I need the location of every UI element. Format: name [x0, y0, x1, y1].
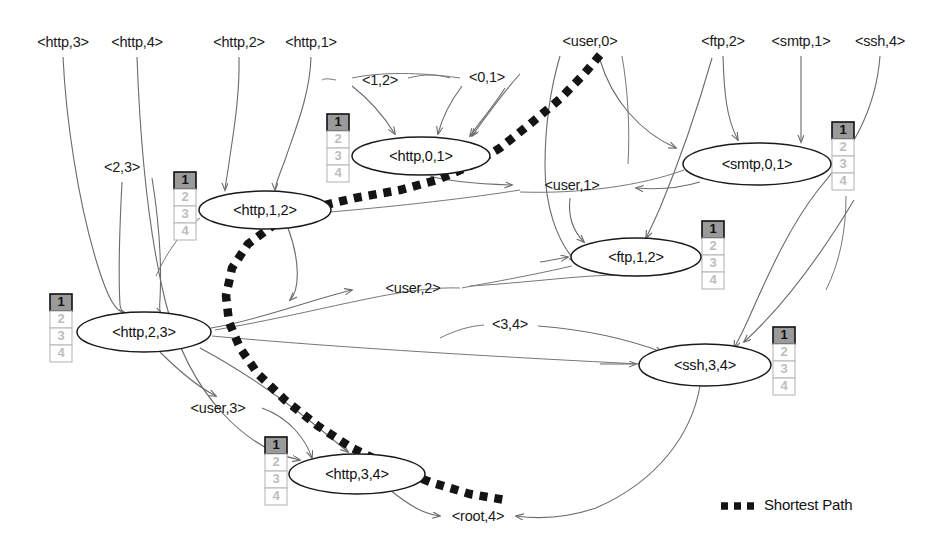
edge-http1-to-http12 — [275, 57, 311, 190]
shortest-path-legend-label: Shortest Path — [764, 496, 852, 513]
edge-http23-to-user3 — [160, 352, 216, 396]
edge-01-to-http01 — [438, 86, 462, 134]
badge-column-http12: 1234 — [174, 172, 196, 240]
badge-cell-label-ftp12-4: 4 — [709, 272, 717, 287]
node-http23[interactable]: 1234<http,2,3> — [50, 294, 211, 362]
edge-badge-to-ssh34 — [744, 200, 854, 342]
edge-user0-left — [545, 56, 576, 262]
graph-canvas: 1234<http,0,1>1234<smtp,0,1>1234<http,1,… — [0, 0, 942, 549]
badge-cell-label-smtp01-1: 1 — [839, 122, 846, 137]
edge-01-cross-to-http01 — [470, 88, 505, 136]
label-user2: <user,2> — [386, 280, 441, 296]
shortest-path-line — [226, 55, 600, 500]
badge-cell-label-http23-4: 4 — [57, 345, 65, 360]
badge-cell-label-ftp12-3: 3 — [709, 255, 716, 270]
edge-23-branch — [152, 178, 162, 314]
edge-smtp01-to-user1 — [636, 182, 700, 189]
edge-http23-to-ssh34 — [212, 336, 640, 364]
edge-user1-to-ftp12 — [570, 198, 584, 242]
label-e23: <2,3> — [104, 159, 140, 175]
badge-cell-label-http34-2: 2 — [272, 454, 279, 469]
node-layer: 1234<http,0,1>1234<smtp,0,1>1234<http,1,… — [50, 114, 854, 505]
badge-column-smtp01: 1234 — [832, 122, 854, 190]
edge-http34-to-root4 — [390, 490, 440, 516]
attack-graph-diagram: 1234<http,0,1>1234<smtp,0,1>1234<http,1,… — [0, 0, 942, 549]
badge-cell-label-http34-4: 4 — [272, 488, 280, 503]
label-e12: <1,2> — [362, 72, 398, 88]
node-ssh34[interactable]: 1234<ssh,3,4> — [639, 327, 795, 395]
label-root4: <root,4> — [452, 508, 504, 524]
edge-smtp-badge-down — [826, 196, 846, 290]
edge-ftp2-to-smtp01 — [723, 56, 738, 140]
label-user3: <user,3> — [191, 400, 246, 416]
node-label-ftp12: <ftp,1,2> — [608, 249, 663, 265]
badge-cell-label-ssh34-4: 4 — [780, 378, 788, 393]
badge-column-ssh34: 1234 — [773, 327, 795, 395]
label-user1: <user,1> — [545, 177, 600, 193]
node-ftp12[interactable]: 1234<ftp,1,2> — [571, 221, 724, 289]
label-ssh4: <ssh,4> — [855, 33, 905, 49]
node-smtp01[interactable]: 1234<smtp,0,1> — [683, 122, 854, 190]
edge-layer — [63, 56, 880, 518]
badge-cell-label-ftp12-2: 2 — [709, 238, 716, 253]
badge-cell-label-http34-1: 1 — [272, 437, 279, 452]
edge-ssh4-to-ssh34 — [734, 56, 880, 348]
badge-cell-label-ssh34-1: 1 — [780, 327, 787, 342]
label-http3: <http,3> — [37, 34, 89, 50]
badge-cell-label-http01-3: 3 — [334, 148, 341, 163]
legend: Shortest Path — [721, 496, 852, 513]
edge-12-to-http01 — [352, 86, 395, 134]
badge-cell-label-smtp01-4: 4 — [839, 173, 847, 188]
node-label-smtp01: <smtp,0,1> — [722, 156, 793, 172]
badge-cell-label-ssh34-2: 2 — [780, 344, 787, 359]
badge-column-ftp12: 1234 — [702, 221, 724, 289]
badge-cell-label-http12-3: 3 — [181, 206, 188, 221]
edge-ftp2-to-ftp12 — [646, 58, 712, 238]
badge-cell-label-http01-1: 1 — [334, 114, 341, 129]
node-http12[interactable]: 1234<http,1,2> — [174, 172, 331, 240]
label-http4: <http,4> — [111, 34, 163, 50]
label-ftp2: <ftp,2> — [701, 33, 745, 49]
edge-to-user2-right — [470, 275, 640, 286]
badge-column-http23: 1234 — [50, 294, 72, 362]
edge-ftp12-left — [462, 266, 572, 288]
edge-23-to-http23 — [119, 182, 128, 315]
edge-user0-right — [622, 56, 629, 164]
badge-cell-label-smtp01-3: 3 — [839, 156, 846, 171]
badge-cell-label-http12-4: 4 — [181, 223, 189, 238]
badge-cell-label-ftp12-1: 1 — [709, 221, 716, 236]
badge-cell-label-http01-4: 4 — [334, 165, 342, 180]
edge-http12-down — [288, 228, 297, 300]
label-smtp1: <smtp,1> — [772, 33, 831, 49]
badge-cell-label-smtp01-2: 2 — [839, 139, 846, 154]
label-http2: <http,2> — [213, 34, 265, 50]
label-layer: <http,3><http,4><http,2><http,1><user,0>… — [37, 33, 905, 524]
node-label-http12: <http,1,2> — [233, 202, 296, 218]
node-label-http23: <http,2,3> — [112, 324, 175, 340]
edge-http3-to-http23 — [63, 57, 126, 314]
edge-34-left-tail — [440, 325, 484, 338]
badge-cell-label-http23-2: 2 — [57, 311, 64, 326]
edge-http2-to-http12 — [225, 57, 239, 190]
badge-cell-label-ssh34-3: 3 — [780, 361, 787, 376]
badge-cell-label-http34-3: 3 — [272, 471, 279, 486]
node-label-ssh34: <ssh,3,4> — [674, 357, 736, 373]
badge-cell-label-http12-2: 2 — [181, 189, 188, 204]
label-e01: <0,1> — [469, 69, 505, 85]
edge-34-to-ssh34 — [538, 326, 662, 352]
node-label-http01: <http,0,1> — [389, 148, 452, 164]
badge-column-http34: 1234 — [265, 437, 287, 505]
edge-into-ftp12-left — [540, 257, 568, 262]
label-user0: <user,0> — [563, 33, 618, 49]
label-http1: <http,1> — [285, 34, 337, 50]
badge-cell-label-http23-3: 3 — [57, 328, 64, 343]
node-http01[interactable]: 1234<http,0,1> — [327, 114, 490, 182]
badge-cell-label-http12-1: 1 — [181, 172, 188, 187]
edge-user0-to-smtp01 — [600, 60, 676, 148]
edge-12-left-tail — [322, 79, 336, 80]
badge-column-http01: 1234 — [327, 114, 349, 182]
badge-cell-label-http23-1: 1 — [57, 294, 64, 309]
edge-ssh34-to-root4 — [516, 386, 700, 518]
node-label-http34: <http,3,4> — [325, 466, 388, 482]
label-e34: <3,4> — [492, 316, 528, 332]
